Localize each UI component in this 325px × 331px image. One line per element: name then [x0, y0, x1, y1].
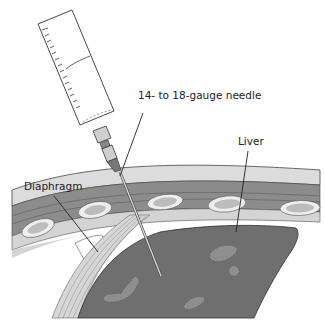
diaphragm-label: Diaphragm — [24, 180, 82, 192]
liver-label: Liver — [238, 135, 264, 147]
thoracentesis-illustration: 14- to 18-gauge needle Diaphragm Liver — [0, 0, 325, 331]
needle-label: 14- to 18-gauge needle — [138, 89, 261, 101]
lesion — [230, 267, 239, 276]
syringe — [38, 10, 121, 172]
